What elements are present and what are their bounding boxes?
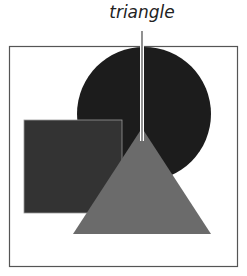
shapes-diagram: [0, 0, 247, 276]
